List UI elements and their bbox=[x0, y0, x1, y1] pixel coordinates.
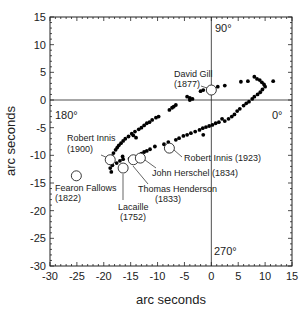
y-tick-label: -25 bbox=[30, 232, 46, 244]
data-point bbox=[242, 104, 246, 108]
data-point bbox=[123, 137, 127, 141]
data-point bbox=[133, 130, 137, 134]
data-point bbox=[263, 85, 267, 89]
data-point bbox=[108, 166, 112, 170]
label-herschel: John Herschel (1834) bbox=[152, 168, 238, 178]
data-point bbox=[246, 79, 250, 83]
quadrant-label-90: 90° bbox=[215, 22, 232, 34]
data-point bbox=[109, 170, 113, 174]
data-point bbox=[157, 115, 161, 119]
data-point bbox=[131, 134, 135, 138]
data-point bbox=[230, 115, 234, 119]
data-point bbox=[181, 134, 185, 138]
data-point bbox=[223, 84, 227, 88]
label-innis1900-year: (1900) bbox=[67, 144, 93, 154]
data-point bbox=[177, 136, 181, 140]
data-point bbox=[191, 97, 195, 101]
data-point bbox=[201, 126, 205, 130]
data-point bbox=[217, 120, 221, 124]
data-point bbox=[239, 80, 243, 84]
data-point bbox=[121, 155, 125, 159]
label-henderson-name: Thomas Henderson bbox=[138, 184, 217, 194]
x-tick-label: -20 bbox=[96, 270, 112, 282]
data-point bbox=[201, 88, 205, 92]
historical-marker bbox=[118, 163, 128, 173]
historical-marker bbox=[105, 155, 115, 165]
data-point bbox=[207, 124, 211, 128]
data-point bbox=[185, 133, 189, 137]
x-tick-label: 15 bbox=[286, 270, 298, 282]
label-innis1923: Robert Innis (1923) bbox=[184, 153, 261, 163]
leader-line bbox=[174, 150, 182, 157]
data-point bbox=[201, 133, 205, 137]
data-point bbox=[198, 128, 202, 132]
data-point bbox=[115, 161, 119, 165]
quadrant-label-0: 0° bbox=[272, 109, 283, 121]
data-point bbox=[204, 125, 208, 129]
data-point bbox=[153, 145, 157, 149]
y-tick-label: 15 bbox=[34, 11, 46, 23]
x-tick-label: 0 bbox=[208, 270, 214, 282]
x-tick-label: 10 bbox=[259, 270, 271, 282]
label-innis1900-name: Robert Innis bbox=[67, 133, 116, 143]
data-point bbox=[235, 109, 239, 113]
y-tick-label: -15 bbox=[30, 177, 46, 189]
data-point bbox=[220, 117, 224, 121]
label-gill-name: David Gill bbox=[174, 69, 213, 79]
leader-line bbox=[133, 166, 148, 184]
data-point bbox=[271, 79, 275, 83]
y-tick-label: 5 bbox=[40, 66, 46, 78]
data-point bbox=[227, 117, 231, 121]
data-point bbox=[250, 97, 254, 101]
historical-marker bbox=[71, 171, 81, 181]
data-point bbox=[112, 151, 116, 155]
data-point bbox=[148, 120, 152, 124]
historical-marker bbox=[164, 143, 174, 153]
leader-line bbox=[145, 160, 156, 168]
x-tick-label: -5 bbox=[180, 270, 190, 282]
data-point bbox=[118, 159, 122, 163]
y-tick-label: 10 bbox=[34, 39, 46, 51]
data-point bbox=[216, 85, 220, 89]
x-tick-label: -10 bbox=[150, 270, 166, 282]
y-tick-label: -20 bbox=[30, 205, 46, 217]
label-henderson-year: (1833) bbox=[155, 194, 181, 204]
data-point bbox=[214, 121, 218, 125]
data-point bbox=[174, 103, 178, 107]
data-point bbox=[211, 123, 215, 127]
x-tick-label: 5 bbox=[235, 270, 241, 282]
historical-marker bbox=[206, 85, 216, 95]
label-lacaille-name: Lacaille bbox=[118, 202, 149, 212]
scatter-chart: -30-25-20-15-10-5051015-30-25-20-15-10-5… bbox=[0, 0, 304, 311]
quadrant-label-180: 180° bbox=[55, 109, 78, 121]
leader-line bbox=[201, 86, 207, 88]
data-point bbox=[189, 131, 193, 135]
x-tick-label: -25 bbox=[69, 270, 85, 282]
label-lacaille-year: (1752) bbox=[120, 212, 146, 222]
x-axis-title: arc seconds bbox=[136, 292, 207, 307]
historical-marker bbox=[135, 153, 145, 163]
x-tick-label: -15 bbox=[123, 270, 139, 282]
y-tick-label: 0 bbox=[40, 94, 46, 106]
y-axis-title: arc seconds bbox=[3, 105, 18, 176]
quadrant-label-270: 270° bbox=[214, 245, 237, 257]
data-point bbox=[256, 93, 260, 97]
data-point bbox=[193, 130, 197, 134]
data-point bbox=[148, 147, 152, 151]
data-point bbox=[127, 135, 131, 139]
label-fallows-year: (1822) bbox=[55, 193, 81, 203]
y-tick-label: -30 bbox=[30, 260, 46, 272]
label-fallows-name: Fearon Fallows bbox=[55, 183, 117, 193]
y-tick-label: -10 bbox=[30, 149, 46, 161]
data-point bbox=[174, 138, 178, 142]
annotation-leader-lines bbox=[101, 86, 207, 200]
label-gill-year: (1877) bbox=[174, 79, 200, 89]
y-tick-label: -5 bbox=[36, 122, 46, 134]
